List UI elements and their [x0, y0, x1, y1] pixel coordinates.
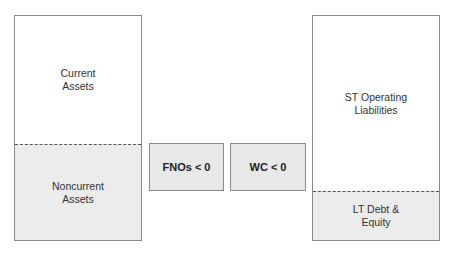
wc-label: WC < 0 — [250, 161, 287, 173]
st-operating-liabilities-label: ST Operating Liabilities — [345, 91, 407, 117]
wc-box: WC < 0 — [230, 143, 306, 191]
st-operating-liabilities-block: ST Operating Liabilities — [313, 16, 439, 191]
current-assets-label: Current Assets — [60, 67, 95, 93]
assets-column: Current Assets Noncurrent Assets — [14, 15, 142, 241]
noncurrent-assets-block: Noncurrent Assets — [15, 144, 141, 240]
lt-debt-equity-label: LT Debt & Equity — [353, 203, 399, 229]
liabilities-column: ST Operating Liabilities LT Debt & Equit… — [312, 15, 440, 241]
current-assets-block: Current Assets — [15, 16, 141, 144]
fnos-box: FNOs < 0 — [149, 143, 224, 191]
noncurrent-assets-label: Noncurrent Assets — [52, 180, 104, 206]
fnos-label: FNOs < 0 — [163, 161, 211, 173]
lt-debt-equity-block: LT Debt & Equity — [313, 191, 439, 240]
